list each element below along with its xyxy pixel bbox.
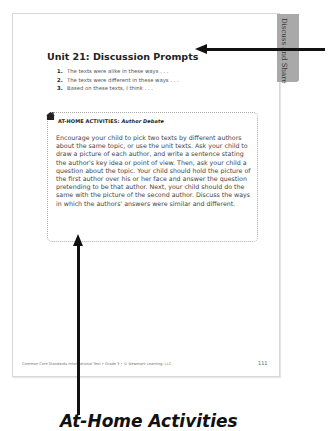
prompt-item: 1.The texts were alike in these ways . .… — [57, 67, 179, 76]
at-home-activities-box: AT-HOME ACTIVITIES: Author Debate Encour… — [47, 112, 258, 242]
activity-heading: AT-HOME ACTIVITIES: Author Debate — [58, 118, 164, 124]
prompt-list: 1.The texts were alike in these ways . .… — [57, 67, 179, 93]
page-title: Unit 21: Discussion Prompts — [47, 51, 198, 62]
house-icon — [46, 112, 55, 120]
annotation-arrow-vertical — [77, 245, 80, 415]
prompt-item: 2.The texts were different in these ways… — [57, 76, 179, 85]
prompt-item: 3.Based on these texts, I think . . . — [57, 84, 179, 93]
activity-body: Encourage your child to pick two texts b… — [56, 134, 252, 208]
annotation-caption: At-Home Activities — [60, 411, 238, 431]
arrowhead-up-icon — [73, 234, 83, 246]
arrowhead-left-icon — [195, 44, 207, 54]
page-footer: Common Core Standards Informational Text… — [22, 362, 171, 366]
annotation-arrow-horizontal — [205, 48, 325, 51]
page-number: 111 — [258, 360, 268, 366]
